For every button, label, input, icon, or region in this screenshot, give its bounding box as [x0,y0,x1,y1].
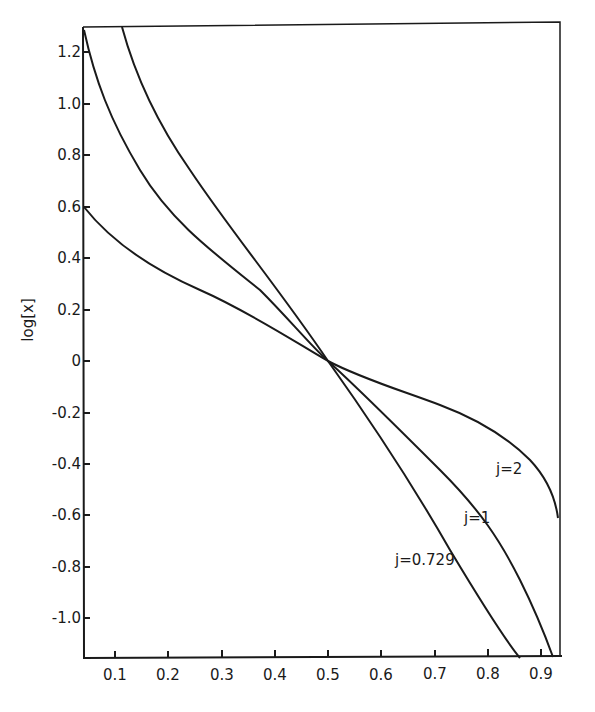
label-j2: j=2 [495,460,522,478]
x-tick-label: 0.3 [210,666,234,684]
x-tick-label: 0.4 [263,666,287,684]
x-tick-label: 0.6 [369,666,393,684]
x-tick-label: 0.1 [103,666,127,684]
chart-canvas: 1.2 1.0 0.8 0.6 0.4 0.2 0 -0.2 -0.4 -0.6… [0,0,595,712]
curve-j2 [84,207,558,518]
y-tick-label: 0.4 [57,249,81,267]
y-tick-label: 1.2 [57,43,81,61]
x-tick-label: 0.2 [156,666,180,684]
axes [83,27,562,658]
y-tick-label: 0.6 [57,198,81,216]
x-tick-label: 0.9 [529,665,553,683]
y-ticks [84,52,90,618]
y-tick-label: -0.8 [52,558,81,576]
plot-frame [83,22,560,656]
y-tick-label: -1.0 [52,609,81,627]
x-tick-label: 0.5 [316,666,340,684]
x-tick-label: 0.8 [476,665,500,683]
x-tick-labels: 0.1 0.2 0.3 0.4 0.5 0.6 0.7 0.8 0.9 [103,665,553,684]
curve-j1 [84,30,553,657]
y-tick-label: 0.8 [57,146,81,164]
y-tick-label: -0.2 [52,404,81,422]
label-j1: j=1 [463,509,490,527]
y-axis-label: log[x] [19,298,37,341]
x-tick-label: 0.7 [423,665,447,683]
label-j0729: j=0.729 [394,551,455,569]
y-tick-label: 0 [71,352,81,370]
y-tick-label: 0.2 [57,301,81,319]
y-tick-label: 1.0 [57,95,81,113]
y-tick-label: -0.6 [52,506,81,524]
curve-j0729 [122,27,520,658]
y-tick-labels: 1.2 1.0 0.8 0.6 0.4 0.2 0 -0.2 -0.4 -0.6… [52,43,81,627]
y-tick-label: -0.4 [52,455,81,473]
